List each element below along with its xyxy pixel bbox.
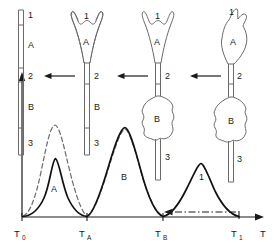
curve-solid (23, 128, 239, 217)
duplex-rail (85, 62, 90, 155)
duplex-rail (19, 10, 24, 155)
duplex-rail (229, 141, 234, 182)
structure-3-label-1: 1 (155, 11, 160, 21)
structure-2-label-B: B (94, 102, 100, 112)
curve-dashed (23, 125, 163, 216)
tick-label-T0-base: T (14, 228, 20, 239)
tick-label-T1-sub: 1 (239, 234, 243, 241)
structure-3-label-2: 2 (165, 71, 170, 81)
transition-arrow-1 (44, 73, 75, 79)
peak-label-B: B (121, 172, 127, 182)
duplex-rail (156, 63, 161, 96)
x-axis-arrowhead (255, 214, 264, 221)
structure-4: 1 A 2 B 3 (214, 7, 247, 182)
structure-4-label-2: 2 (237, 71, 242, 81)
tick-label-TA-base: T (79, 228, 85, 239)
peak-label-A: A (51, 184, 57, 194)
structure-2: 1 A 2 B 3 (71, 11, 103, 155)
peak-label-1: 1 (199, 172, 204, 182)
tick-label-TA-sub: A (87, 234, 92, 241)
structure-2-label-2: 2 (94, 71, 99, 81)
structure-3-label-3: 3 (165, 152, 170, 162)
tick-label-T0-sub: 0 (22, 234, 26, 241)
axis-tick-label-T1: T 1 (231, 228, 243, 241)
structure-3-label-B: B (154, 114, 160, 124)
structure-2-label-1: 1 (84, 11, 89, 21)
duplex-rail (156, 139, 161, 180)
structure-4-label-3: 3 (237, 154, 242, 164)
structure-4-label-A: A (230, 37, 236, 47)
axis-tick-label-TA: T A (79, 228, 92, 241)
structure-3-label-A: A (154, 37, 160, 47)
baseline-dashdot-arrow (164, 209, 236, 215)
figure-canvas: 1 A 2 B 3 1 A 2 B 3 (0, 0, 276, 248)
axis-tick-label-TB: T B (155, 228, 167, 241)
structure-4-label-1: 1 (229, 7, 234, 17)
structure-3: 1 A 2 B 3 (142, 11, 174, 180)
structure-1-label-1: 1 (28, 10, 33, 20)
tick-label-T1-base: T (231, 228, 237, 239)
transition-arrow-3 (190, 73, 221, 79)
structure-1-label-2: 2 (28, 71, 33, 81)
structure-1-label-A: A (28, 40, 34, 50)
transition-arrow-2 (117, 73, 148, 79)
structure-2-label-A: A (83, 37, 89, 47)
axes (19, 72, 264, 221)
axis-tick-label-T0: T 0 (14, 228, 26, 241)
structure-1: 1 A 2 B 3 (19, 10, 35, 155)
structure-1-label-B: B (28, 102, 34, 112)
tick-label-TB-base: T (155, 228, 161, 239)
y-axis-arrowhead (19, 72, 25, 81)
structure-2-label-3: 3 (94, 138, 99, 148)
duplex-rail (229, 64, 234, 97)
structure-1-label-3: 3 (28, 138, 33, 148)
tick-label-TB-sub: B (163, 234, 167, 241)
structure-4-label-B: B (228, 116, 234, 126)
x-axis-label: T (260, 228, 266, 239)
